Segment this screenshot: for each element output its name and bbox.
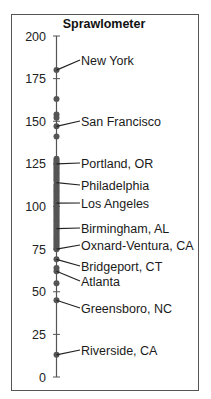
- data-point: [54, 115, 60, 121]
- data-point: [54, 134, 60, 140]
- tick-label: 200: [25, 30, 46, 44]
- tick-label: 0: [39, 371, 46, 385]
- city-label: Birmingham, AL: [81, 222, 169, 236]
- sprawlometer-chart: Sprawlometer 0255075100125150175200 New …: [0, 0, 211, 399]
- city-label: Bridgeport, CT: [81, 260, 163, 274]
- tick-label: 75: [32, 243, 46, 257]
- city-label: Atlanta: [81, 275, 120, 289]
- tick-label: 50: [32, 285, 46, 299]
- tick-label: 100: [25, 200, 46, 214]
- tick-label: 175: [25, 72, 46, 86]
- data-point: [54, 280, 60, 286]
- city-label: New York: [81, 54, 135, 68]
- chart-title: Sprawlometer: [63, 17, 146, 31]
- city-label: Oxnard-Ventura, CA: [81, 239, 194, 253]
- tick-label: 125: [25, 157, 46, 171]
- city-label: Portland, OR: [81, 157, 153, 171]
- leader-line: [57, 228, 81, 229]
- data-point: [54, 96, 60, 102]
- city-label: Greensboro, NC: [81, 302, 172, 316]
- city-label: Los Angeles: [81, 197, 149, 211]
- city-label: Philadelphia: [81, 179, 149, 193]
- city-label: Riverside, CA: [81, 344, 158, 358]
- tick-label: 150: [25, 115, 46, 129]
- city-label: San Francisco: [81, 115, 161, 129]
- tick-label: 25: [32, 328, 46, 342]
